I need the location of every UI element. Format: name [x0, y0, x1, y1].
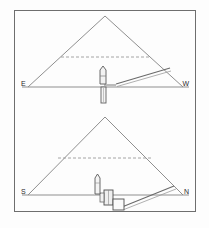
label-north: N	[184, 188, 189, 195]
burial-chamber-bottom	[113, 199, 124, 210]
label-south: S	[21, 188, 26, 195]
label-east: E	[21, 80, 26, 87]
section-drawing: E W S N	[0, 0, 209, 228]
label-west: W	[182, 80, 189, 87]
vertical-shaft-bottom	[95, 174, 100, 194]
burial-chamber-top	[100, 66, 106, 84]
side-niche-bottom	[100, 193, 104, 202]
pyramid-sections-figure: E W S N	[0, 0, 209, 228]
